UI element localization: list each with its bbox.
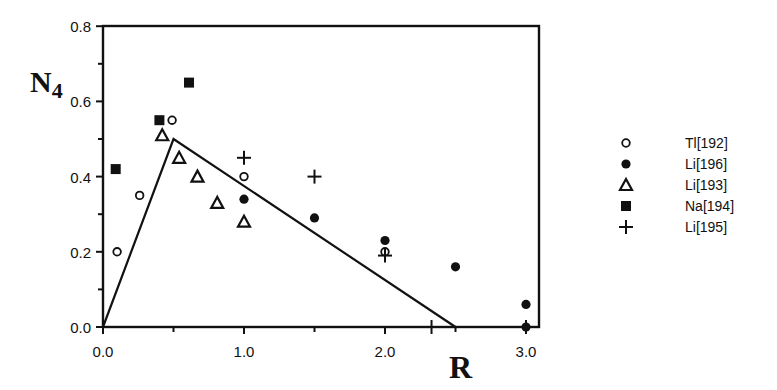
data-point — [136, 192, 144, 200]
legend-label: Na[194] — [685, 198, 734, 214]
y-axis-title-subscript: 4 — [52, 78, 63, 103]
legend-label: Tl[192] — [685, 135, 728, 151]
open-circle-icon — [622, 139, 630, 147]
y-tick-label: 0.0 — [70, 319, 91, 336]
open-triangle-icon — [620, 179, 632, 190]
series-li-196- — [239, 195, 530, 332]
x-axis-title: R — [449, 349, 473, 385]
data-point — [425, 320, 439, 334]
data-point — [308, 170, 322, 184]
legend-item: Tl[192] — [622, 135, 728, 151]
y-axis-title-main: N — [30, 65, 52, 98]
y-tick-label: 0.4 — [70, 169, 91, 186]
y-tick-label: 0.8 — [70, 18, 91, 35]
legend-item: Li[193] — [620, 177, 727, 193]
data-points — [111, 78, 533, 334]
data-point — [310, 213, 319, 222]
data-point — [191, 171, 203, 182]
y-tick-label: 0.2 — [70, 244, 91, 261]
model-line — [103, 139, 456, 327]
legend-label: Li[193] — [685, 177, 727, 193]
x-tick-label: 0.0 — [93, 343, 114, 360]
data-point — [113, 248, 121, 256]
legend-item: Li[195] — [619, 219, 727, 235]
data-point — [184, 78, 194, 88]
data-point — [237, 151, 251, 165]
legend-label: Li[196] — [685, 156, 727, 172]
data-point — [378, 249, 392, 263]
series-tl-192- — [113, 116, 389, 255]
data-point — [211, 197, 223, 208]
data-point — [519, 320, 533, 334]
x-tick-label: 1.0 — [234, 343, 255, 360]
data-point — [238, 216, 250, 227]
data-point — [239, 195, 248, 204]
data-point — [168, 116, 176, 124]
n4-vs-r-scatter-chart: 0.00.20.40.60.80.01.02.03.0 N4 R Tl[192]… — [0, 0, 777, 390]
series-li-193- — [156, 129, 250, 226]
data-point — [380, 236, 389, 245]
legend-label: Li[195] — [685, 219, 727, 235]
data-point — [451, 262, 460, 271]
plus-icon — [619, 220, 633, 234]
filled-circle-icon — [621, 159, 630, 168]
data-point — [156, 129, 168, 140]
model-polyline — [103, 139, 456, 327]
x-tick-label: 3.0 — [516, 343, 537, 360]
filled-square-icon — [621, 201, 631, 211]
data-point — [521, 300, 530, 309]
y-axis-title: N4 — [30, 65, 63, 103]
x-tick-label: 2.0 — [375, 343, 396, 360]
legend: Tl[192]Li[196]Li[193]Na[194]Li[195] — [619, 135, 734, 235]
legend-item: Li[196] — [621, 156, 727, 172]
data-point — [154, 115, 164, 125]
axis-ticks — [96, 26, 526, 334]
y-tick-label: 0.6 — [70, 93, 91, 110]
data-point — [240, 173, 248, 181]
data-point — [111, 164, 121, 174]
tick-labels: 0.00.20.40.60.80.01.02.03.0 — [70, 18, 536, 360]
legend-item: Na[194] — [621, 198, 734, 214]
data-point — [173, 152, 185, 163]
